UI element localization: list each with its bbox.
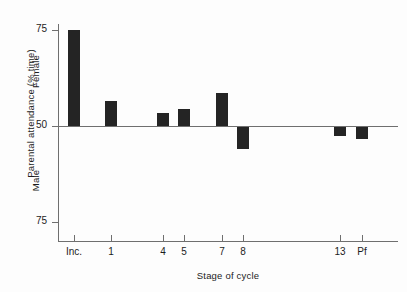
y-axis-group-label-female: Female bbox=[30, 32, 41, 112]
x-tick-label: Inc. bbox=[54, 246, 94, 257]
x-tick-label: 1 bbox=[91, 246, 131, 257]
x-axis-line bbox=[58, 241, 398, 242]
y-axis-line bbox=[58, 24, 59, 242]
bar-pf bbox=[356, 127, 368, 139]
x-axis-title: Stage of cycle bbox=[58, 270, 398, 281]
chart-figure: Parental attendance (% time) Female Male… bbox=[0, 0, 407, 292]
y-tick-mark bbox=[52, 126, 59, 127]
x-tick-mark bbox=[362, 235, 363, 242]
x-tick-mark bbox=[243, 235, 244, 242]
y-tick-label: 75 bbox=[7, 215, 47, 226]
y-tick-label: 75 bbox=[7, 23, 47, 34]
x-tick-mark bbox=[163, 235, 164, 242]
bar-1 bbox=[105, 101, 117, 126]
x-tick-mark bbox=[340, 235, 341, 242]
x-tick-mark bbox=[111, 235, 112, 242]
y-axis-group-label-male: Male bbox=[30, 141, 41, 221]
y-tick-label: 50 bbox=[7, 119, 47, 130]
baseline-50-line bbox=[58, 126, 398, 127]
x-tick-label: Pf bbox=[342, 246, 382, 257]
bar-4 bbox=[157, 113, 169, 126]
y-tick-mark bbox=[52, 30, 59, 31]
x-tick-label: 5 bbox=[164, 246, 204, 257]
bar-5 bbox=[178, 109, 190, 126]
bar-7 bbox=[216, 93, 228, 126]
bar-13 bbox=[334, 127, 346, 136]
bar-inc bbox=[68, 30, 80, 126]
bar-8 bbox=[237, 127, 249, 149]
x-tick-label: 8 bbox=[223, 246, 263, 257]
y-tick-mark bbox=[52, 222, 59, 223]
x-tick-mark bbox=[184, 235, 185, 242]
x-tick-mark bbox=[222, 235, 223, 242]
x-tick-mark bbox=[74, 235, 75, 242]
